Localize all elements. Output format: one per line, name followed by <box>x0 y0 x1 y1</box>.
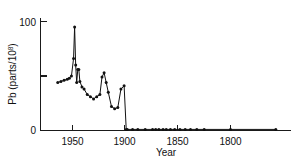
data-point <box>75 81 78 84</box>
data-point <box>78 80 81 83</box>
y-axis-title: Pb (parts/108) <box>7 43 19 104</box>
data-point <box>136 128 139 131</box>
data-point <box>113 107 116 110</box>
data-point <box>56 81 59 84</box>
data-point <box>131 128 134 131</box>
data-point <box>59 80 62 83</box>
y-tick-label-0: 0 <box>30 125 36 136</box>
data-point <box>203 128 206 131</box>
data-point <box>274 128 277 131</box>
data-point <box>70 75 73 78</box>
data-point <box>162 128 165 131</box>
svg-text:Pb (parts/108): Pb (parts/108) <box>7 43 19 104</box>
data-point <box>154 128 157 131</box>
data-point <box>173 128 176 131</box>
data-series-layer <box>56 25 277 130</box>
data-point <box>195 128 198 131</box>
data-point <box>105 81 108 84</box>
pb-vs-year-line-chart: 100 0 1950 1900 1850 1800 Year Pb (parts… <box>0 0 295 158</box>
data-point <box>184 128 187 131</box>
data-point <box>83 88 86 91</box>
data-point <box>116 106 119 109</box>
x-tick-label-1800: 1800 <box>219 136 242 147</box>
data-point <box>103 71 106 74</box>
x-axis-title: Year <box>156 147 177 158</box>
x-tick-label-1900: 1900 <box>113 136 136 147</box>
data-point <box>110 105 113 108</box>
data-point <box>144 128 147 131</box>
data-point <box>95 95 98 98</box>
data-point <box>98 93 101 96</box>
chart-figure: 100 0 1950 1900 1850 1800 Year Pb (parts… <box>0 0 295 158</box>
y-axis-title-suffix: ) <box>7 43 18 46</box>
y-axis-title-main: Pb (parts/10 <box>7 50 18 105</box>
data-point <box>229 128 232 131</box>
data-point <box>63 79 66 82</box>
y-tick-label-100: 100 <box>19 17 36 28</box>
data-point <box>100 76 103 79</box>
data-point <box>72 57 75 60</box>
data-point <box>123 84 126 87</box>
data-point <box>77 68 80 71</box>
data-point <box>86 93 89 96</box>
data-point <box>157 128 160 131</box>
data-point <box>119 88 122 91</box>
data-point <box>73 25 76 28</box>
data-point <box>68 77 71 80</box>
data-point <box>151 128 154 131</box>
data-point <box>107 91 110 94</box>
data-point <box>89 95 92 98</box>
data-point <box>92 97 95 100</box>
x-tick-label-1950: 1950 <box>61 136 84 147</box>
data-point <box>165 128 168 131</box>
data-point <box>189 128 192 131</box>
x-tick-label-1850: 1850 <box>166 136 189 147</box>
data-point <box>74 64 77 67</box>
y-axis-ticks <box>41 22 47 131</box>
data-point <box>169 128 172 131</box>
data-point <box>126 128 129 131</box>
data-point <box>80 85 83 88</box>
data-point <box>178 128 181 131</box>
